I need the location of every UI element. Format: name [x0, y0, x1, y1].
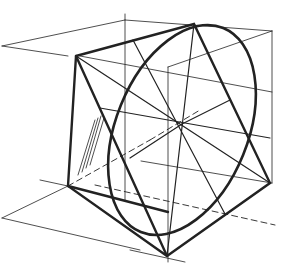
diagonal-lines — [76, 24, 270, 256]
cube-ellipse-drawing — [0, 0, 282, 274]
diagram — [0, 0, 282, 274]
triangle — [68, 24, 270, 256]
hatching — [78, 116, 104, 175]
construction-lines — [2, 14, 272, 262]
